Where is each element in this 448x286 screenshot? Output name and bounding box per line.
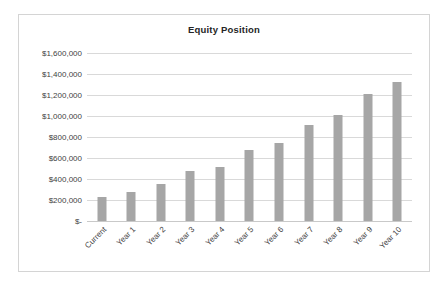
x-tick-slot: Year 6 bbox=[264, 53, 294, 221]
x-tick-slot: Year 4 bbox=[205, 53, 235, 221]
x-tick-slot: Current bbox=[87, 53, 117, 221]
y-axis-tick-label: $800,000 bbox=[49, 133, 82, 142]
x-axis-tick-label: Year 3 bbox=[174, 225, 197, 248]
x-tick-slot: Year 9 bbox=[353, 53, 383, 221]
x-axis-tick-label: Year 8 bbox=[322, 225, 345, 248]
x-tick-slot: Year 7 bbox=[294, 53, 324, 221]
y-axis-tick-label: $1,600,000 bbox=[42, 49, 82, 58]
x-tick-slot: Year 5 bbox=[235, 53, 265, 221]
x-axis-tick-label: Year 10 bbox=[378, 225, 404, 251]
x-tick-slot: Year 2 bbox=[146, 53, 176, 221]
axis-baseline bbox=[87, 221, 412, 222]
x-axis-tick-label: Year 7 bbox=[292, 225, 315, 248]
y-axis-tick-label: $1,400,000 bbox=[42, 70, 82, 79]
y-axis-tick-label: $1,000,000 bbox=[42, 112, 82, 121]
x-axis-tick-label: Year 9 bbox=[352, 225, 375, 248]
x-tick-slot: Year 10 bbox=[382, 53, 412, 221]
y-axis-tick-label: $1,200,000 bbox=[42, 91, 82, 100]
x-tick-slot: Year 8 bbox=[323, 53, 353, 221]
chart-container: Equity Position $1,600,000$1,400,000$1,2… bbox=[18, 14, 430, 272]
x-tick-slot: Year 3 bbox=[176, 53, 206, 221]
chart-title: Equity Position bbox=[19, 24, 429, 35]
x-axis-tick-label: Current bbox=[83, 225, 108, 250]
x-axis-tick-label: Year 1 bbox=[115, 225, 138, 248]
x-axis-tick-label: Year 4 bbox=[204, 225, 227, 248]
x-axis-tick-label: Year 6 bbox=[263, 225, 286, 248]
x-tick-slot: Year 1 bbox=[117, 53, 147, 221]
y-axis-tick-label: $600,000 bbox=[49, 154, 82, 163]
x-axis-tick-label: Year 2 bbox=[145, 225, 168, 248]
x-axis-tick-label: Year 5 bbox=[233, 225, 256, 248]
plot-area: $1,600,000$1,400,000$1,200,000$1,000,000… bbox=[87, 53, 412, 221]
y-axis-tick-label: $400,000 bbox=[49, 175, 82, 184]
y-axis-tick-label: $- bbox=[75, 217, 82, 226]
y-axis-tick-label: $200,000 bbox=[49, 196, 82, 205]
